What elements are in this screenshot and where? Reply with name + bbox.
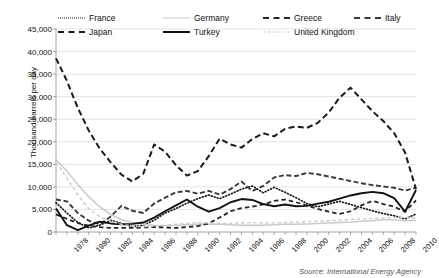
axis-lines (53, 29, 416, 235)
series-line-turkey (56, 190, 416, 230)
series-line-japan (56, 58, 416, 189)
series-line-italy (56, 173, 416, 224)
source-note: Source: International Energy Agency (299, 267, 421, 276)
series-lines (56, 58, 416, 230)
